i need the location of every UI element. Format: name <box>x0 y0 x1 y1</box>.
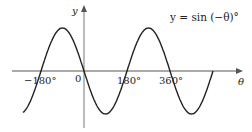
x-axis-label: θ <box>238 77 244 87</box>
tick-label-neg180: −180° <box>24 76 56 86</box>
tick-label-360: 360° <box>159 76 183 86</box>
tick-label-180: 180° <box>117 76 141 86</box>
equation-label: y = sin (−θ)° <box>170 12 239 23</box>
y-axis-arrow-icon <box>81 5 87 12</box>
origin-label: 0 <box>75 74 81 84</box>
x-axis-arrow-icon <box>236 68 243 74</box>
y-axis-label: y <box>72 6 78 16</box>
